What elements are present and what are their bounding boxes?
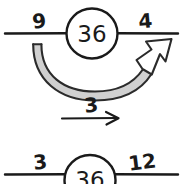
- bottom-circle-value: 36: [75, 167, 104, 184]
- top-circle-value: 36: [77, 21, 106, 47]
- bottom-right-label: 12: [127, 148, 158, 175]
- diagram-canvas: 36 9 4 3 36 3 12: [0, 0, 182, 184]
- top-left-label: 9: [31, 8, 47, 33]
- middle-label: 3: [83, 92, 99, 117]
- math-number-bond-diagram: 36 9 4 3 36 3 12: [0, 0, 182, 184]
- middle-arrow-shaft: [62, 118, 116, 119]
- top-right-label: 4: [137, 8, 153, 33]
- bottom-left-label: 3: [32, 149, 48, 174]
- curved-arrow-head: [137, 39, 172, 75]
